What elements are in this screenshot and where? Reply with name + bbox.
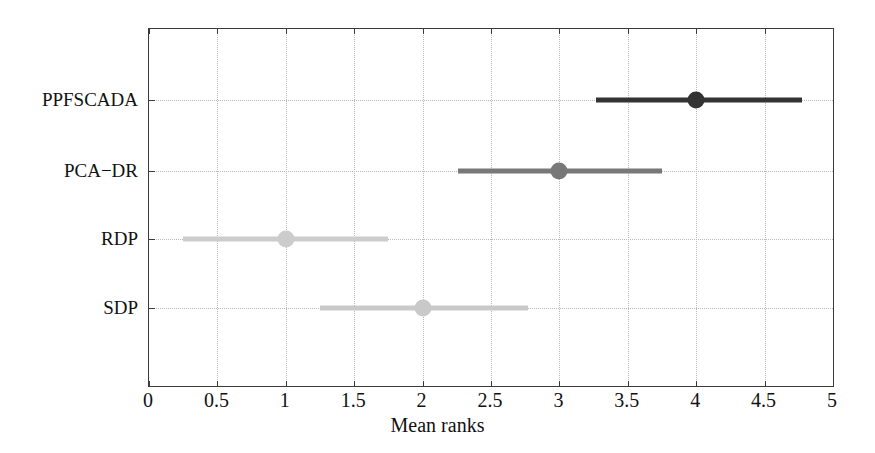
mean-rank-marker [551, 163, 568, 180]
x-tick-mark [354, 381, 355, 387]
x-tick-label: 1 [280, 390, 290, 410]
x-tick-label: 2.5 [478, 390, 503, 410]
x-tick-mark [765, 381, 766, 387]
vertical-gridline [765, 29, 766, 386]
mean-rank-marker [414, 300, 431, 317]
chart-figure: PPFSCADAPCA−DRRDPSDP 00.511.522.533.544.… [0, 0, 875, 453]
vertical-gridline [696, 29, 697, 386]
mean-rank-marker [277, 231, 294, 248]
y-tick-mark [148, 308, 155, 309]
vertical-gridline [559, 29, 560, 386]
x-tick-mark-top [765, 28, 766, 34]
y-axis-category-label: PCA−DR [64, 161, 138, 180]
x-tick-label: 3 [553, 390, 563, 410]
vertical-gridline [354, 29, 355, 386]
vertical-gridline [217, 29, 218, 386]
x-tick-mark-top [354, 28, 355, 34]
x-tick-label: 2 [417, 390, 427, 410]
x-tick-mark-top [696, 28, 697, 34]
x-tick-mark [628, 381, 629, 387]
y-axis-category-label: PPFSCADA [42, 90, 138, 109]
x-tick-mark [696, 381, 697, 387]
x-tick-label: 5 [827, 390, 837, 410]
x-tick-mark [423, 381, 424, 387]
x-tick-mark [491, 381, 492, 387]
x-tick-mark-top [149, 28, 150, 34]
x-tick-mark-top [217, 28, 218, 34]
x-tick-label: 1.5 [341, 390, 366, 410]
x-tick-mark [833, 381, 834, 387]
vertical-gridline [286, 29, 287, 386]
x-tick-label: 3.5 [614, 390, 639, 410]
y-axis-label-column: PPFSCADAPCA−DRRDPSDP [0, 0, 138, 453]
x-tick-label: 4 [690, 390, 700, 410]
vertical-gridline [491, 29, 492, 386]
x-tick-label: 4.5 [751, 390, 776, 410]
x-tick-mark [559, 381, 560, 387]
x-tick-mark-top [628, 28, 629, 34]
y-tick-mark [148, 239, 155, 240]
x-tick-label: 0.5 [204, 390, 229, 410]
mean-rank-marker [688, 92, 705, 109]
x-tick-mark-top [559, 28, 560, 34]
x-tick-mark [217, 381, 218, 387]
x-tick-mark-top [833, 28, 834, 34]
x-tick-mark [286, 381, 287, 387]
x-tick-mark [149, 381, 150, 387]
x-tick-mark-top [423, 28, 424, 34]
y-axis-category-label: RDP [101, 229, 138, 248]
y-tick-mark [148, 100, 155, 101]
y-tick-mark [148, 171, 155, 172]
vertical-gridline [628, 29, 629, 386]
x-tick-label: 0 [143, 390, 153, 410]
x-axis-title: Mean ranks [0, 414, 875, 437]
vertical-gridline [423, 29, 424, 386]
plot-area [148, 28, 834, 387]
x-tick-mark-top [286, 28, 287, 34]
y-axis-category-label: SDP [103, 298, 138, 317]
x-tick-mark-top [491, 28, 492, 34]
